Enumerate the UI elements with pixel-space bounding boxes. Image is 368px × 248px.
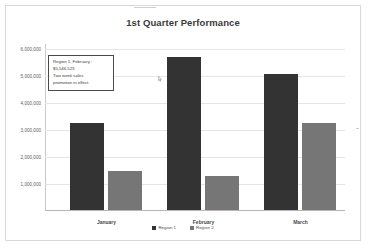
chart-title: 1st Quarter Performance: [6, 17, 360, 28]
mouse-pointer-icon: [158, 76, 162, 82]
callout-line-1: Region 1, February :: [53, 59, 110, 66]
bar-group-march: March: [264, 44, 337, 210]
legend-swatch-region-1: [152, 226, 156, 230]
y-tick-label-3000000: 3,000,000: [21, 128, 41, 133]
legend-label-region-2: Region 2: [196, 225, 214, 230]
callout-line-2: $5,546,523: [53, 66, 110, 73]
legend-swatch-region-2: [190, 226, 194, 230]
y-tick-label-6000000: 6,000,000: [21, 47, 41, 52]
legend-label-region-1: Region 1: [158, 225, 176, 230]
y-tick-label-1000000: 1,000,000: [21, 181, 41, 186]
bar-february-region-1[interactable]: [167, 57, 201, 210]
bar-group-february: February: [167, 44, 240, 210]
y-tick-label-5000000: 5,000,000: [21, 74, 41, 79]
scan-artifact-right: [356, 128, 359, 129]
x-axis-line: [45, 210, 345, 211]
y-axis-line: [45, 44, 46, 211]
chart-container: 1st Quarter Performance 6,000,000 5,000,…: [5, 5, 361, 241]
region1-february-callout: Region 1, February : $5,546,523 Two week…: [48, 55, 114, 91]
bar-january-region-1[interactable]: [70, 123, 104, 210]
chart-legend: Region 1 Region 2: [6, 225, 360, 230]
bar-february-region-2[interactable]: [205, 176, 239, 210]
legend-item-region-1[interactable]: Region 1: [152, 225, 176, 230]
callout-line-4: promotion in effect.: [53, 80, 110, 87]
scan-artifact-top: [134, 7, 156, 8]
bar-march-region-1[interactable]: [264, 74, 298, 210]
bar-march-region-2[interactable]: [302, 123, 336, 210]
y-tick-label-2000000: 2,000,000: [21, 155, 41, 160]
callout-line-3: Two week sales: [53, 73, 110, 80]
y-tick-label-4000000: 4,000,000: [21, 100, 41, 105]
bar-january-region-2[interactable]: [108, 171, 142, 210]
legend-item-region-2[interactable]: Region 2: [190, 225, 214, 230]
